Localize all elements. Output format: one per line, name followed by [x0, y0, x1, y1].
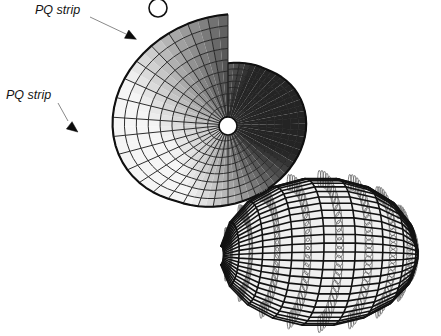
annotation-label: PQ strip — [35, 3, 80, 17]
annotation-label: PQ strip — [6, 88, 51, 102]
figure-root: PQ stripPQ strip — [0, 0, 441, 336]
surface-notch-0 — [149, 0, 167, 17]
surface-notch-1 — [219, 117, 237, 135]
figure-canvas: PQ stripPQ strip — [0, 0, 441, 336]
